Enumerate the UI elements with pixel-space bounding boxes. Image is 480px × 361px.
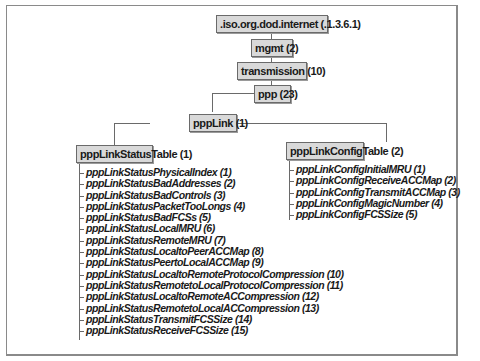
node-pppLink: pppLink (1) [189, 114, 237, 132]
config-item: pppLinkConfigFCSSize (5) [290, 209, 460, 220]
status-item: pppLinkStatusPeertoLocalACCMap (9) [80, 257, 344, 268]
connector-to-configTable [386, 123, 387, 142]
node-transmission: transmission (10) [237, 62, 307, 80]
node-config-table: pppLinkConfigTable (2) [286, 142, 364, 160]
node-mgmt: mgmt (2) [251, 39, 293, 57]
connector-to-statusTable [114, 123, 115, 145]
node-root: .iso.org.dod.internet (.1.3.6.1) [216, 15, 328, 33]
connector-ppp-h [212, 93, 256, 94]
node-status-table: pppLinkStatusTable (1) [76, 145, 153, 163]
status-item: pppLinkStatusReceiveFCSSize (15) [80, 325, 344, 336]
connector-ppp-pppLink [212, 93, 213, 112]
node-ppp: ppp (23) [254, 85, 291, 103]
status-item: pppLinkStatusLocaltoRemoteACCompression … [80, 291, 344, 302]
config-items-list: pppLinkConfigInitialMRU (1) pppLinkConfi… [290, 164, 460, 220]
connector-pppLink-left-h [114, 123, 150, 124]
connector-pppLink-right-h [236, 123, 386, 124]
config-item: pppLinkConfigReceiveACCMap (2) [290, 175, 460, 186]
